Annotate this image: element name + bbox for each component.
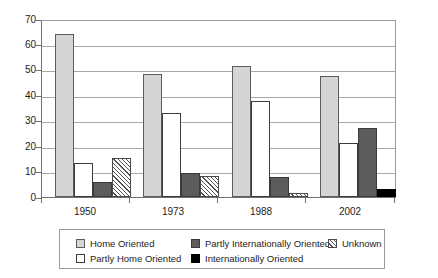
x-tick-label-1973: 1973 [143,206,203,217]
y-tick-label-60: 60 [2,40,36,50]
bar-1973-partly-home-oriented [162,113,181,197]
x-tick-mark-3 [305,198,306,203]
x-tick-label-1950: 1950 [55,206,115,217]
bar-1973-unknown [200,176,219,197]
legend-item-internationally-oriented: Internationally Oriented [191,252,303,265]
legend-item-unknown: Unknown [328,237,382,250]
bar-chart: 70 60 50 40 30 20 10 0 [0,0,438,278]
legend-label-partly-home-oriented: Partly Home Oriented [90,253,181,264]
bar-1988-unknown [289,193,308,197]
x-tick-mark-1 [129,198,130,203]
bar-1973-partly-internationally-oriented [181,173,200,197]
y-axis: 70 60 50 40 30 20 10 0 [0,0,36,215]
bar-2002-partly-internationally-oriented [358,128,377,197]
legend-label-unknown: Unknown [342,238,382,249]
chart-legend: Home Oriented Partly Home Oriented Partl… [59,229,385,269]
y-tick-label-70: 70 [2,15,36,25]
home-oriented-swatch-icon [76,239,85,248]
partly-internationally-oriented-swatch-icon [191,239,200,248]
plot-region: 70 60 50 40 30 20 10 0 [0,0,438,215]
plot-area [41,20,396,198]
bar-1950-home-oriented [55,34,74,197]
bar-1988-partly-internationally-oriented [270,177,289,197]
bar-1988-partly-home-oriented [251,101,270,197]
unknown-swatch-icon [328,239,337,248]
bar-1950-unknown [112,158,131,197]
bar-2002-internationally-oriented [377,189,396,197]
bars-layer [42,21,395,197]
bar-1988-home-oriented [232,66,251,197]
y-tick-label-50: 50 [2,65,36,75]
y-tick-label-20: 20 [2,142,36,152]
legend-item-partly-internationally-oriented: Partly Internationally Oriented [191,237,330,250]
bar-1950-partly-internationally-oriented [93,182,112,197]
internationally-oriented-swatch-icon [191,254,200,263]
x-tick-label-2002: 2002 [320,206,380,217]
x-tick-mark-left-edge [41,198,42,203]
y-tick-label-40: 40 [2,91,36,101]
legend-item-partly-home-oriented: Partly Home Oriented [76,252,181,265]
x-axis: 1950 1973 1988 2002 [41,198,396,220]
legend-label-home-oriented: Home Oriented [90,238,154,249]
y-tick-label-30: 30 [2,116,36,126]
x-tick-mark-2 [217,198,218,203]
legend-label-partly-internationally-oriented: Partly Internationally Oriented [205,238,330,249]
y-tick-label-0: 0 [2,193,36,203]
legend-label-internationally-oriented: Internationally Oriented [205,253,303,264]
partly-home-oriented-swatch-icon [76,254,85,263]
y-tick-label-10: 10 [2,167,36,177]
bar-1973-home-oriented [143,74,162,197]
bar-2002-home-oriented [320,76,339,197]
bar-2002-partly-home-oriented [339,143,358,197]
bar-1950-partly-home-oriented [74,163,93,197]
x-tick-mark-right-edge [394,198,395,203]
legend-item-home-oriented: Home Oriented [76,237,154,250]
x-tick-label-1988: 1988 [231,206,291,217]
